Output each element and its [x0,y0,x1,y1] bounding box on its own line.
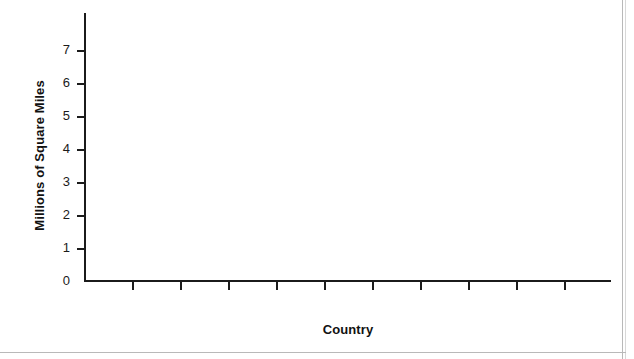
x-axis-tick [132,282,134,290]
x-axis-tick [564,282,566,290]
x-axis-tick [372,282,374,290]
x-axis-tick [516,282,518,290]
y-axis-tick-label: 0 [48,274,70,287]
y-axis-tick [77,149,85,151]
x-axis-tick [180,282,182,290]
y-axis-tick-label: 5 [48,109,70,122]
y-axis-tick-label: 4 [48,142,70,155]
y-axis-tick [77,182,85,184]
y-axis-tick [77,50,85,52]
x-axis-line [84,280,611,282]
y-axis-line [84,13,86,282]
y-axis-tick [77,215,85,217]
y-axis-tick [77,116,85,118]
y-axis-tick-label: 1 [48,241,70,254]
y-axis-tick-label: 7 [48,43,70,56]
y-axis-tick [77,248,85,250]
y-axis-tick [77,83,85,85]
y-axis-title: Millions of Square Miles [32,41,47,271]
x-axis-title: Country [84,322,612,337]
y-axis-tick-label: 3 [48,175,70,188]
chart-screenshot: 7 6 5 4 3 2 1 0 [0,0,634,359]
x-axis-tick [468,282,470,290]
y-axis-tick-label: 2 [48,208,70,221]
x-axis-tick [228,282,230,290]
y-axis-tick-label: 6 [48,76,70,89]
x-axis-tick [420,282,422,290]
plot-area: 7 6 5 4 3 2 1 0 [0,0,634,359]
x-axis-tick [324,282,326,290]
x-axis-tick [276,282,278,290]
